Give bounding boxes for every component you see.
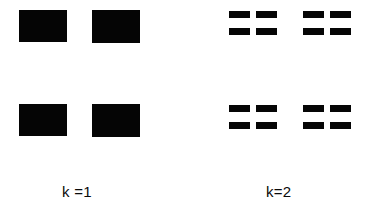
sub-bar	[256, 28, 277, 35]
sub-bar	[303, 11, 324, 18]
subdivided-block	[229, 105, 277, 129]
sub-bar	[330, 11, 351, 18]
sub-bar	[256, 105, 277, 112]
solid-block	[19, 10, 67, 42]
group-label-k2: k=2	[266, 184, 292, 199]
sub-bar	[256, 11, 277, 18]
sub-bar	[303, 28, 324, 35]
subdivided-block	[303, 105, 351, 129]
solid-block	[92, 10, 140, 43]
subdivided-block	[229, 11, 277, 35]
sub-bar	[229, 11, 250, 18]
sub-bar	[256, 122, 277, 129]
sub-bar	[229, 28, 250, 35]
sub-bar	[330, 28, 351, 35]
figure-canvas: k =1 k=2	[0, 0, 375, 218]
solid-block	[92, 104, 140, 137]
sub-bar	[229, 122, 250, 129]
sub-bar	[303, 122, 324, 129]
group-label-k1: k =1	[62, 184, 92, 199]
subdivided-block	[303, 11, 351, 35]
sub-bar	[303, 105, 324, 112]
sub-bar	[229, 105, 250, 112]
sub-bar	[330, 122, 351, 129]
sub-bar	[330, 105, 351, 112]
solid-block	[19, 104, 67, 136]
